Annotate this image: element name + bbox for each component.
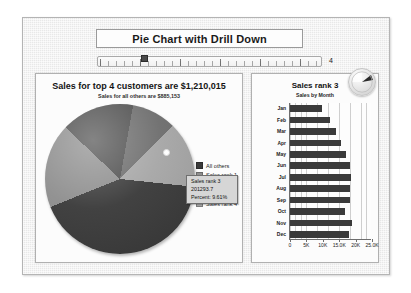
x-axis-tick-mark [339, 239, 340, 242]
tooltip-line-percent: Percent: 9.61% [191, 194, 234, 202]
bar-item[interactable]: Mar [290, 128, 336, 135]
pie-tooltip: Sales rank 3 201293.7 Percent: 9.61% [186, 175, 238, 204]
pie-disc[interactable] [45, 104, 195, 254]
bar-item[interactable]: Jun [290, 162, 350, 169]
bar-item[interactable]: Jul [290, 174, 351, 181]
bar-item[interactable]: Aug [290, 185, 350, 192]
x-axis-tick-label: 15.0K [333, 242, 346, 248]
pie-slice-pointer-icon[interactable] [348, 68, 376, 96]
drill-down-slider[interactable]: 4 [97, 55, 340, 68]
slider-track[interactable] [97, 56, 322, 67]
pie-selected-point-marker[interactable] [163, 149, 170, 156]
tooltip-line-label: Sales rank 3 [191, 178, 234, 186]
bar-category-label: Jun [256, 162, 286, 169]
pie-chart-title: Sales for top 4 customers are $1,210,015 [36, 81, 242, 91]
bar-category-label: Sep [256, 197, 286, 204]
bar-category-label: Jan [256, 105, 286, 112]
bar-category-label: Jul [256, 174, 286, 181]
slider-value-label: 4 [329, 57, 333, 64]
x-axis-tick-label: 20K [351, 242, 360, 248]
x-axis-tick-label: 5K [303, 242, 309, 248]
x-axis-tick-mark [356, 239, 357, 242]
bar-category-label: Aug [256, 185, 286, 192]
bar-item[interactable]: Apr [290, 140, 341, 147]
slider-thumb[interactable] [141, 55, 148, 62]
page-title: Pie Chart with Drill Down [132, 33, 267, 45]
bar-category-label: Mar [256, 128, 286, 135]
slider-major-ticks [100, 59, 319, 66]
x-axis-tick-mark [306, 239, 307, 242]
dashboard-screen: Pie Chart with Drill Down 4 Sales for to… [0, 0, 411, 293]
x-axis-tick-mark [290, 239, 291, 242]
bar-plot-area: JanFebMarAprMayJunJulAugSepOctNovDec05K1… [289, 103, 371, 240]
x-axis-tick-mark [323, 239, 324, 242]
legend-label: All others [206, 163, 229, 169]
x-axis-tick-label: 25.0K [365, 242, 378, 248]
pie-graphic[interactable] [45, 104, 195, 256]
legend-swatch [196, 162, 203, 169]
bar-item[interactable]: Nov [290, 220, 352, 227]
bar-category-label: Nov [256, 220, 286, 227]
pie-chart-subtitle: Sales for all others are $885,153 [36, 93, 242, 99]
x-axis-tick-label: 0 [289, 242, 292, 248]
bar-category-label: Apr [256, 140, 286, 147]
bar-item[interactable]: May [290, 151, 346, 158]
dashboard-panel: Pie Chart with Drill Down 4 Sales for to… [22, 17, 390, 275]
bar-item[interactable]: Oct [290, 208, 345, 215]
pie-chart-pane: Sales for top 4 customers are $1,210,015… [35, 73, 243, 263]
legend-item[interactable]: All others [196, 161, 237, 171]
bar-item[interactable]: Sep [290, 197, 350, 204]
bar-item[interactable]: Jan [290, 105, 322, 112]
bar-item[interactable]: Dec [290, 231, 349, 238]
bar-item[interactable]: Feb [290, 117, 330, 124]
dashboard-title-box: Pie Chart with Drill Down [96, 29, 303, 48]
bar-category-label: May [256, 151, 286, 158]
bar-category-label: Oct [256, 208, 286, 215]
x-axis-tick-mark [372, 239, 373, 242]
x-axis-tick-label: 10K [318, 242, 327, 248]
bar-category-label: Feb [256, 117, 286, 124]
bar-chart-pane: Sales rank 3 Sales by Month JanFebMarApr… [251, 73, 379, 263]
bar-category-label: Dec [256, 231, 286, 238]
tooltip-line-value: 201293.7 [191, 186, 234, 194]
